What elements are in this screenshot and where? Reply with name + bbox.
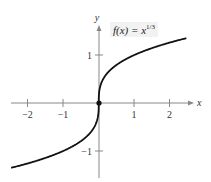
- x-tick-label: 2: [167, 109, 172, 120]
- y-tick-label: 1: [87, 50, 92, 61]
- x-tick-label: −1: [58, 109, 69, 120]
- x-axis-arrow-icon: [188, 101, 194, 106]
- function-label: f(x) = x1/3: [110, 22, 158, 37]
- chart-canvas: −2 −1 1 2 1 −1 x y: [0, 0, 211, 182]
- x-tick-label: −2: [22, 109, 33, 120]
- origin-point: [96, 100, 101, 105]
- y-tick-label: −1: [81, 146, 92, 157]
- function-label-text: f(x) = x: [113, 24, 146, 36]
- y-axis-arrow-icon: [97, 25, 102, 31]
- y-axis-label: y: [94, 12, 100, 23]
- function-label-exponent: 1/3: [146, 23, 155, 31]
- x-tick-label: 1: [132, 109, 137, 120]
- x-axis-label: x: [196, 97, 202, 108]
